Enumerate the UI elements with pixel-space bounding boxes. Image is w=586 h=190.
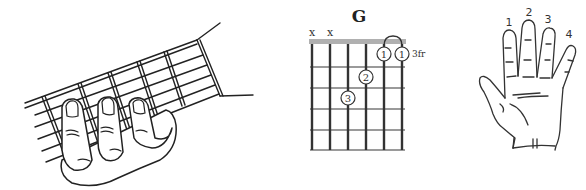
finger-dot: 1 [395,47,409,61]
finger-dot: 3 [341,91,355,105]
middle-finger [518,20,537,77]
neck-body-edge [220,95,253,96]
chord-name: G [352,6,367,26]
muted-string-marker: x [327,26,334,39]
svg-text:2: 2 [363,72,369,83]
chord-chart: G x x 1 [295,0,445,190]
ring-finger [537,28,555,78]
headstock-edge [197,23,220,40]
fretting-hand-illustration [0,0,270,190]
finger-numbering-hand: 1 2 3 4 [460,0,586,190]
finger-dot: 1 [377,47,391,61]
pinky-finger [552,46,576,89]
svg-text:1: 1 [399,49,405,60]
finger-dot: 2 [359,70,373,84]
finger-label: 1 [506,16,513,29]
muted-string-marker: x [309,26,316,39]
svg-text:1: 1 [381,49,387,60]
chord-diagram: G x x 1 [295,0,445,190]
fret-lines [310,67,405,150]
finger-label: 2 [526,6,533,19]
svg-text:3: 3 [345,93,351,104]
guitar-neck-hand-drawing [0,0,270,190]
nut-bar [309,39,406,44]
finger-label: 3 [545,13,552,26]
hand-drawing: 1 2 3 4 [460,0,586,190]
finger-label: 4 [566,28,573,41]
fret-position-label: 3fr [412,49,426,59]
index-finger [503,30,518,98]
